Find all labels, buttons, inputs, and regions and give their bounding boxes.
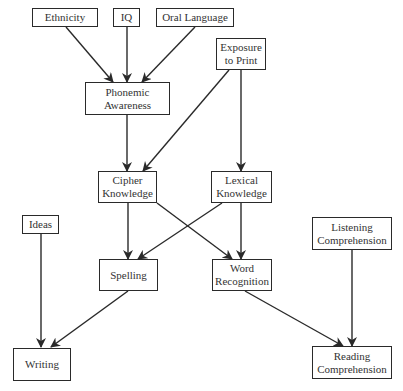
node-ethnicity: Ethnicity <box>32 8 98 27</box>
node-reading-comprehension: Reading Comprehension <box>312 346 392 379</box>
node-iq: IQ <box>113 8 140 27</box>
node-spelling: Spelling <box>99 259 158 291</box>
edges-layer <box>0 0 403 391</box>
edge-cipher-word <box>157 203 232 259</box>
node-cipher-knowledge: Cipher Knowledge <box>98 171 157 203</box>
node-word-recognition: Word Recognition <box>212 259 272 291</box>
edge-lexical-spelling <box>138 203 222 259</box>
edge-oral-phonemic <box>142 27 195 82</box>
node-phonemic-awareness: Phonemic Awareness <box>85 82 170 115</box>
node-exposure-to-print: Exposure to Print <box>216 38 266 70</box>
diagram-canvas: Ethnicity IQ Oral Language Exposure to P… <box>0 0 403 391</box>
edge-ethnicity-phonemic <box>66 27 113 82</box>
node-lexical-knowledge: Lexical Knowledge <box>211 171 272 203</box>
node-oral-language: Oral Language <box>156 8 234 27</box>
node-writing: Writing <box>13 348 71 381</box>
node-ideas: Ideas <box>22 215 59 234</box>
edge-word-reading <box>245 291 343 346</box>
edge-spelling-writing <box>51 291 128 347</box>
node-listening-comprehension: Listening Comprehension <box>312 217 392 250</box>
